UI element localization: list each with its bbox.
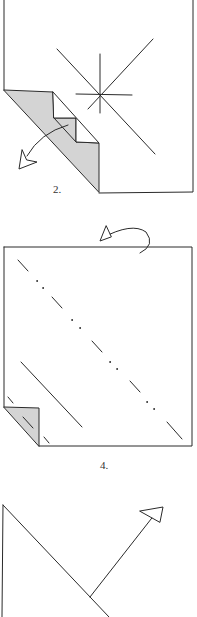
step-4-panel: 4. <box>4 226 192 471</box>
turn-over-arrow-icon <box>100 226 150 253</box>
folded-corner <box>4 407 39 446</box>
paper-diagonal-edge <box>3 505 109 617</box>
paper-left-edge <box>2 505 3 617</box>
step-2-panel: 2. <box>4 0 193 195</box>
corner-dash <box>44 437 49 443</box>
origami-diagram: 2. <box>0 0 197 617</box>
corner-dash <box>8 397 13 403</box>
step-label: 4. <box>100 459 109 471</box>
step-label: 2. <box>53 183 62 195</box>
step-5-panel <box>2 505 163 617</box>
mountain-fold-line <box>18 260 182 439</box>
straight-arrow-icon <box>90 507 163 597</box>
